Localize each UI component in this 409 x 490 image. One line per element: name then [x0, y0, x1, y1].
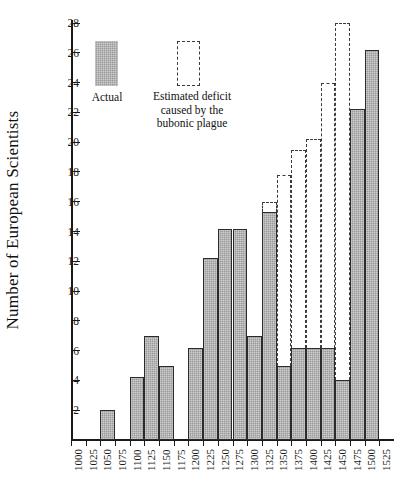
- deficit-bar: [291, 150, 306, 348]
- x-axis-tick-label: 1350: [277, 449, 290, 489]
- x-axis-tick-mark: [174, 441, 175, 446]
- x-axis-tick-mark: [350, 441, 351, 446]
- deficit-bar: [277, 175, 292, 366]
- x-axis-tick-label: 1500: [365, 449, 378, 489]
- bar: [277, 366, 292, 440]
- x-axis-tick-label: 1050: [101, 449, 114, 489]
- x-axis-tick-label: 1300: [248, 449, 261, 489]
- bar: [247, 336, 262, 440]
- bar: [350, 109, 365, 440]
- x-axis-tick-label: 1275: [233, 449, 246, 489]
- deficit-bar: [262, 202, 277, 212]
- deficit-bar: [335, 23, 350, 380]
- x-axis-tick-mark: [115, 441, 116, 446]
- y-axis-title: Number of European Scientists: [0, 0, 26, 440]
- x-axis-tick-mark: [144, 441, 145, 446]
- x-axis-tick-mark: [379, 441, 380, 446]
- x-axis-tick-label: 1250: [219, 449, 232, 489]
- x-axis-tick-mark: [306, 441, 307, 446]
- legend-label-actual: Actual: [78, 91, 136, 103]
- bar: [365, 50, 380, 440]
- x-axis-tick-label: 1400: [307, 449, 320, 489]
- x-axis-tick-mark: [277, 441, 278, 446]
- x-axis-tick-mark: [335, 441, 336, 446]
- x-axis-tick-label: 1225: [204, 449, 217, 489]
- x-axis-tick-label: 1425: [321, 449, 334, 489]
- x-axis-tick-mark: [233, 441, 234, 446]
- legend-swatch-deficit: [177, 41, 200, 86]
- x-axis-tick-mark: [218, 441, 219, 446]
- x-axis-tick-label: 1175: [175, 449, 188, 489]
- x-axis-tick-label: 1200: [189, 449, 202, 489]
- plot-area: [71, 23, 393, 440]
- x-axis-tick-label: 1450: [336, 449, 349, 489]
- x-axis-tick-mark: [130, 441, 131, 446]
- x-axis-tick-mark: [262, 441, 263, 446]
- x-axis-tick-label: 1025: [87, 449, 100, 489]
- x-axis-tick-label: 1475: [351, 449, 364, 489]
- deficit-bar: [321, 83, 336, 348]
- x-axis-tick-label: 1150: [160, 449, 173, 489]
- bar: [159, 366, 174, 440]
- x-axis-tick-mark: [247, 441, 248, 446]
- x-axis-tick-label: 1000: [72, 449, 85, 489]
- x-axis-tick-label: 1075: [116, 449, 129, 489]
- bar: [188, 348, 203, 440]
- legend-label-deficit: Estimated deficit caused by the bubonic …: [142, 90, 242, 131]
- bar: [262, 212, 277, 440]
- x-axis-tick-mark: [71, 441, 72, 446]
- bar: [100, 410, 115, 440]
- x-axis-tick-mark: [291, 441, 292, 446]
- legend-swatch-actual: [95, 41, 118, 86]
- bar: [291, 348, 306, 440]
- x-axis-tick-mark: [100, 441, 101, 446]
- deficit-bar: [306, 139, 321, 348]
- x-axis-tick-mark: [159, 441, 160, 446]
- x-axis-tick-mark: [365, 441, 366, 446]
- x-axis-tick-label: 1125: [145, 449, 158, 489]
- bar: [218, 229, 233, 440]
- x-axis-tick-label: 1525: [380, 449, 393, 489]
- bar: [203, 258, 218, 440]
- chart-container: Number of European Scientists 2468101214…: [0, 0, 409, 490]
- bar: [144, 336, 159, 440]
- x-axis-tick-label: 1100: [131, 449, 144, 489]
- x-axis-tick-mark: [188, 441, 189, 446]
- x-axis-tick-label: 1375: [292, 449, 305, 489]
- bar: [306, 348, 321, 440]
- bar: [335, 380, 350, 440]
- bar: [130, 377, 145, 440]
- x-axis-tick-mark: [86, 441, 87, 446]
- bar: [233, 229, 248, 440]
- x-axis-tick-mark: [203, 441, 204, 446]
- bar: [321, 348, 336, 440]
- x-axis-tick-mark: [321, 441, 322, 446]
- x-axis-tick-label: 1325: [263, 449, 276, 489]
